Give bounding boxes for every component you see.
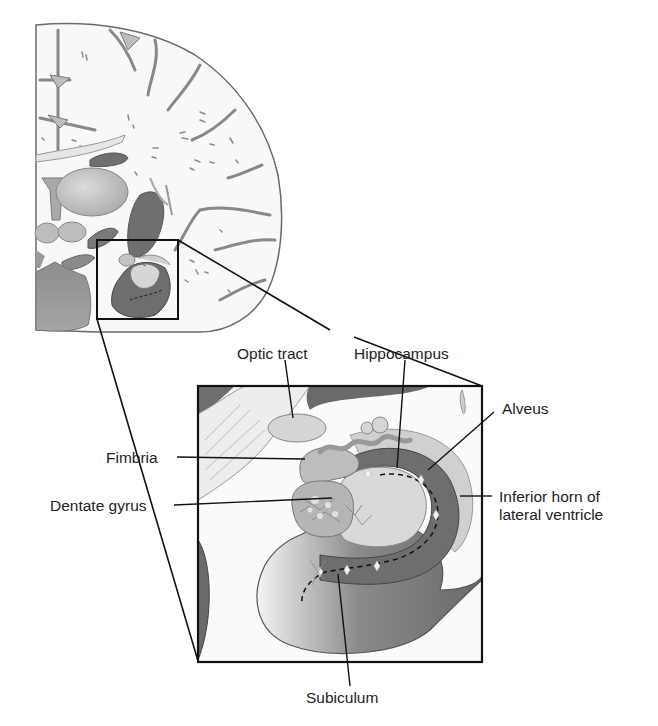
label-dentate-gyrus: Dentate gyrus — [50, 497, 147, 514]
coronal-brain-section — [35, 24, 282, 332]
label-hippocampus: Hippocampus — [354, 345, 449, 362]
diagram-canvas — [0, 0, 658, 726]
label-optic-tract: Optic tract — [237, 345, 308, 362]
projection-line — [97, 319, 198, 661]
label-inferior-horn-line2: lateral ventricle — [499, 506, 603, 523]
label-alveus: Alveus — [502, 400, 549, 417]
label-subiculum: Subiculum — [306, 689, 378, 706]
hippocampus-diagram: Optic tract Hippocampus Alveus Fimbria D… — [0, 0, 658, 726]
label-fimbria: Fimbria — [106, 449, 158, 466]
label-inferior-horn-line1: Inferior horn of — [499, 488, 600, 505]
magnified-inset — [198, 386, 482, 662]
